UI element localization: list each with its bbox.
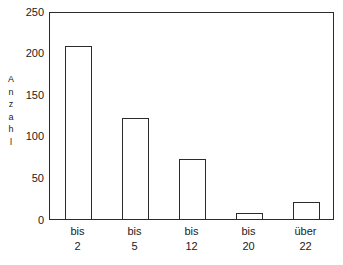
y-axis-tick-label: 200: [5, 48, 49, 59]
x-axis-tick-label-line: bis: [48, 224, 108, 239]
y-axis-tick-label: 0: [5, 215, 49, 226]
y-axis-tick-label: 50: [5, 173, 49, 184]
bar: [179, 159, 206, 219]
bar: [122, 118, 149, 219]
x-axis-tick-label: bis12: [162, 224, 222, 254]
y-axis-tick-label: 150: [5, 90, 49, 101]
plot-frame: [49, 12, 334, 220]
x-axis-tick-label-line: 2: [48, 239, 108, 254]
y-axis-tick-label: 100: [5, 131, 49, 142]
x-axis-tick-label: bis5: [105, 224, 165, 254]
x-axis-tick-label-line: 22: [276, 239, 336, 254]
bar: [236, 213, 263, 219]
plot-area: [50, 13, 333, 219]
x-axis-tick-label-line: 20: [219, 239, 279, 254]
x-axis-tick-label: bis2: [48, 224, 108, 254]
x-axis-tick-label-line: bis: [219, 224, 279, 239]
x-axis-tick-label-line: bis: [105, 224, 165, 239]
y-axis-tick-label: 250: [5, 7, 49, 18]
x-axis-tick-label: über22: [276, 224, 336, 254]
x-axis-tick-label: bis20: [219, 224, 279, 254]
bar-chart: Anzahl 050100150200250 bis2bis5bis12bis2…: [0, 0, 343, 265]
x-axis-tick-labels: bis2bis5bis12bis20über22: [49, 224, 334, 264]
bar: [293, 202, 320, 219]
bar: [65, 46, 92, 219]
x-axis-tick-label-line: bis: [162, 224, 222, 239]
x-axis-tick-label-line: über: [276, 224, 336, 239]
x-axis-tick-label-line: 12: [162, 239, 222, 254]
y-axis-tick-labels: 050100150200250: [0, 0, 49, 265]
x-axis-tick-label-line: 5: [105, 239, 165, 254]
